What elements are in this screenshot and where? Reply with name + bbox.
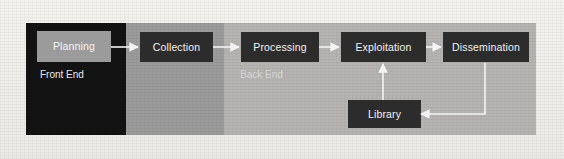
caption-back-end: Back End [240, 70, 283, 80]
node-library-label: Library [368, 109, 401, 120]
diagram-canvas: Planning Collection Processing Exploitat… [0, 0, 564, 159]
node-planning[interactable]: Planning [37, 31, 111, 62]
node-library[interactable]: Library [348, 100, 421, 128]
node-dissemination-label: Dissemination [452, 42, 520, 53]
node-processing-label: Processing [253, 42, 306, 53]
node-planning-label: Planning [53, 41, 95, 52]
node-dissemination[interactable]: Dissemination [443, 32, 529, 62]
node-exploitation-label: Exploitation [355, 42, 411, 53]
node-processing[interactable]: Processing [241, 32, 319, 62]
node-exploitation[interactable]: Exploitation [341, 32, 426, 62]
caption-front-end: Front End [40, 70, 84, 80]
node-collection-label: Collection [153, 42, 201, 53]
node-collection[interactable]: Collection [140, 32, 213, 62]
